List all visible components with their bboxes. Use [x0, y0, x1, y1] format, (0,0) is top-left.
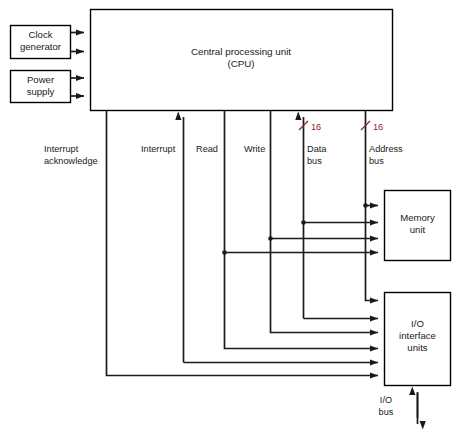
clock-generator-box[interactable]: Clock generator	[11, 26, 71, 59]
interrupt-acknowledge-label: Interrupt acknowledge	[44, 144, 98, 166]
block-diagram-canvas: Clock generator Power supply Central pro…	[0, 0, 464, 441]
cpu-box[interactable]: Central processing unit (CPU)	[91, 10, 393, 111]
data-bus-label: Data bus	[307, 144, 327, 166]
write-label: Write	[244, 144, 265, 154]
power-supply-label-line1: Power	[27, 74, 55, 85]
io-bus-connector: I/O bus	[379, 392, 418, 424]
interrupt-acknowledge-label-line1: Interrupt	[44, 144, 79, 154]
clock-generator-label-line2: generator	[20, 41, 62, 52]
address-bus-label-line1: Address	[369, 144, 403, 154]
memory-unit-label-line1: Memory	[400, 212, 435, 223]
data-bus-width-annotation: 16	[299, 121, 321, 132]
io-interface-label-line3: units	[407, 342, 427, 353]
data-bus-width-label: 16	[311, 122, 321, 132]
read-label-line1: Read	[196, 144, 218, 154]
memory-unit-label-line2: unit	[410, 224, 426, 235]
memory-unit-box[interactable]: Memory unit	[385, 191, 451, 261]
block-diagram-svg: Clock generator Power supply Central pro…	[0, 0, 464, 441]
cpu-label-line1: Central processing unit	[191, 46, 291, 57]
data-bus-label-line1: Data	[307, 144, 327, 154]
address-bus-width-annotation: 16	[361, 121, 383, 132]
io-interface-label-line1: I/O	[411, 318, 424, 329]
read-label: Read	[196, 144, 218, 154]
clock-generator-label-line1: Clock	[29, 29, 53, 40]
write-label-line1: Write	[244, 144, 265, 154]
io-interface-units-box[interactable]: I/O interface units	[385, 293, 451, 386]
data-bus-label-line2: bus	[307, 156, 322, 166]
address-bus-label: Address bus	[369, 144, 403, 166]
interrupt-label: Interrupt	[141, 144, 176, 154]
address-bus-line	[363, 111, 378, 301]
interrupt-label-line1: Interrupt	[141, 144, 176, 154]
clock-to-cpu-arrows	[71, 33, 85, 52]
cpu-label-line2: (CPU)	[227, 58, 254, 69]
io-bus-label-line1: I/O	[380, 395, 392, 405]
io-bus-label-line2: bus	[379, 407, 394, 417]
power-supply-box[interactable]: Power supply	[11, 71, 71, 103]
address-bus-width-label: 16	[373, 122, 383, 132]
power-supply-label-line2: supply	[27, 86, 55, 97]
power-to-cpu-arrows	[71, 78, 85, 96]
io-interface-label-line2: interface	[399, 330, 436, 341]
address-bus-label-line2: bus	[369, 156, 384, 166]
interrupt-acknowledge-label-line2: acknowledge	[44, 156, 98, 166]
